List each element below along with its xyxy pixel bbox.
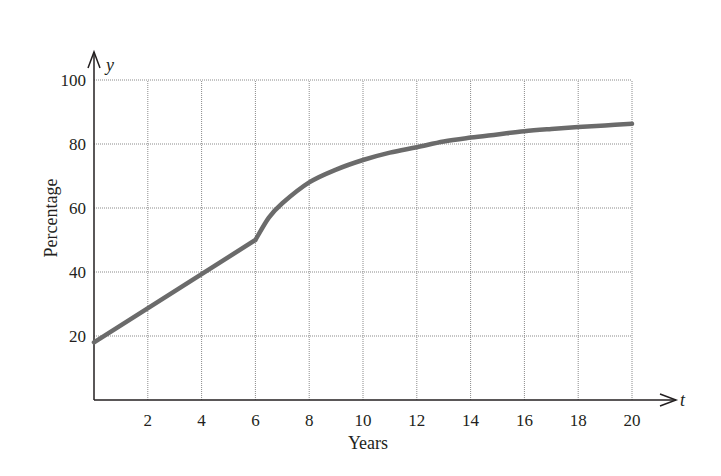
y-tick-label: 80	[69, 135, 86, 154]
x-tick-label: 12	[408, 411, 425, 430]
x-tick-label: 18	[570, 411, 587, 430]
y-axis-label: Percentage	[41, 179, 61, 258]
line-chart: 20406080100 2468101214161820 y t Years P…	[0, 0, 721, 476]
x-tick-label: 10	[355, 411, 372, 430]
y-axis-variable: y	[104, 55, 114, 75]
x-tick-label: 14	[462, 411, 480, 430]
y-tick-label: 20	[69, 327, 86, 346]
y-tick-label: 100	[61, 71, 87, 90]
x-tick-labels: 2468101214161820	[144, 411, 641, 430]
x-tick-label: 4	[197, 411, 206, 430]
x-tick-label: 8	[305, 411, 314, 430]
x-tick-label: 6	[251, 411, 260, 430]
y-tick-labels: 20406080100	[61, 71, 87, 346]
x-tick-label: 16	[516, 411, 533, 430]
x-tick-label: 2	[144, 411, 153, 430]
x-axis-variable: t	[680, 390, 686, 410]
x-axis-label: Years	[348, 433, 388, 453]
y-tick-label: 40	[69, 263, 86, 282]
y-tick-label: 60	[69, 199, 86, 218]
axes	[88, 52, 676, 406]
x-tick-label: 20	[624, 411, 641, 430]
